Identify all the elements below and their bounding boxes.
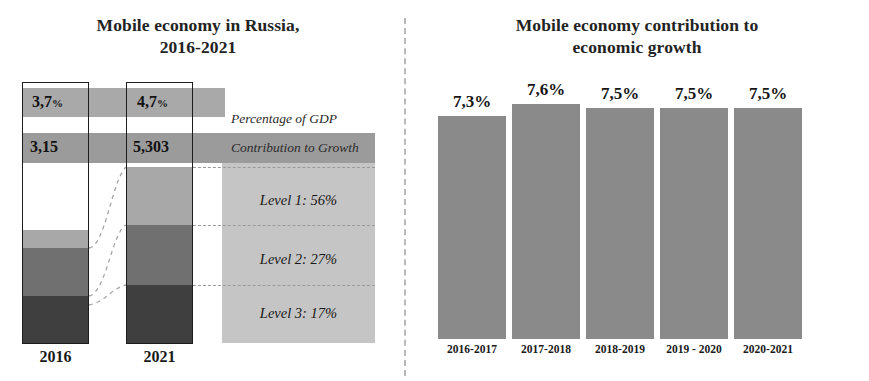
caption-contribution-to-growth: Contribution to Growth: [231, 140, 359, 156]
left-chart-title-line2: 2016-2021: [8, 36, 388, 58]
column-outline-2016: [22, 82, 89, 344]
gdp-value-2016: 3,7%: [32, 93, 63, 111]
lead-line-level1: [193, 167, 375, 168]
bar-2019 - 2020: [660, 108, 728, 339]
left-chart-panel: Mobile economy in Russia, 2016-2021 3,7%…: [0, 0, 405, 381]
bar-2020-2021: [734, 108, 802, 339]
bar-2017-2018: [512, 104, 580, 339]
right-chart-panel: Mobile economy contribution to economic …: [405, 0, 869, 381]
column-label-2016: 2016: [22, 348, 89, 366]
bar-value-2018-2019: 7,5%: [586, 84, 654, 104]
column-label-2021: 2021: [126, 348, 193, 366]
bar-category-2016-2017: 2016-2017: [432, 343, 512, 355]
column-outline-2021: [126, 82, 193, 344]
bar-category-2018-2019: 2018-2019: [580, 343, 660, 355]
legend-level-1: Level 1: 56%: [222, 192, 375, 209]
gdp-value-2021-unit: %: [157, 97, 168, 109]
bar-value-2019 - 2020: 7,5%: [660, 84, 728, 104]
right-chart-title-line2: economic growth: [425, 36, 849, 58]
right-chart-title: Mobile economy contribution to economic …: [425, 14, 849, 58]
left-chart-title: Mobile economy in Russia, 2016-2021: [8, 14, 388, 58]
bar-2016-2017: [438, 116, 506, 339]
gdp-value-2021: 4,7%: [137, 93, 168, 111]
bar-value-2020-2021: 7,5%: [734, 84, 802, 104]
gdp-value-2021-number: 4,7: [137, 93, 157, 110]
gdp-value-2016-number: 3,7: [32, 93, 52, 110]
bar-category-2020-2021: 2020-2021: [728, 343, 808, 355]
bar-value-2017-2018: 7,6%: [512, 80, 580, 100]
growth-value-2021: 5,303: [133, 138, 169, 156]
lead-line-level2: [193, 225, 375, 226]
left-chart-title-line1: Mobile economy in Russia,: [8, 14, 388, 36]
growth-value-2016: 3,15: [30, 138, 58, 156]
gdp-value-2016-unit: %: [52, 97, 63, 109]
legend-level-3: Level 3: 17%: [222, 305, 375, 322]
bar-category-2017-2018: 2017-2018: [506, 343, 586, 355]
bar-category-2019 - 2020: 2019 - 2020: [654, 343, 734, 355]
right-chart-title-line1: Mobile economy contribution to: [425, 14, 849, 36]
lead-line-level3: [193, 285, 375, 286]
caption-percentage-of-gdp: Percentage of GDP: [231, 111, 337, 127]
bar-2018-2019: [586, 108, 654, 339]
legend-level-2: Level 2: 27%: [222, 251, 375, 268]
bar-value-2016-2017: 7,3%: [438, 92, 506, 112]
